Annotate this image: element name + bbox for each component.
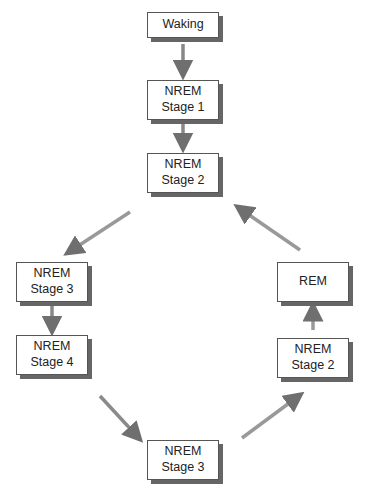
arrow-rem-nrem2top [242, 210, 300, 250]
arrow-nrem2-nrem3left [72, 212, 130, 250]
node-label: Stage 4 [30, 355, 73, 371]
node-nrem3-left: NREMStage 3 [16, 262, 88, 302]
node-label: REM [299, 274, 327, 290]
arrows-layer [0, 0, 371, 497]
arrow-nrem3bottom-nrem2right [242, 398, 296, 438]
node-label: NREM [34, 266, 71, 282]
node-label: NREM [165, 157, 202, 173]
node-label: Stage 3 [161, 460, 204, 476]
node-label: Stage 2 [161, 173, 204, 189]
node-nrem2-top: NREMStage 2 [147, 153, 219, 193]
node-nrem3-bottom: NREMStage 3 [147, 440, 219, 480]
node-label: NREM [165, 444, 202, 460]
node-nrem1: NREMStage 1 [147, 80, 219, 120]
node-label: Stage 3 [30, 282, 73, 298]
node-waking: Waking [147, 12, 219, 38]
node-nrem2-right: NREMStage 2 [277, 338, 349, 378]
node-rem: REM [277, 262, 349, 302]
node-nrem4: NREMStage 4 [16, 335, 88, 375]
node-label: NREM [165, 84, 202, 100]
node-label: NREM [295, 342, 332, 358]
node-label: Stage 1 [161, 100, 204, 116]
arrow-nrem4-nrem3bottom [100, 396, 136, 435]
node-label: NREM [34, 339, 71, 355]
node-label: Waking [162, 17, 203, 33]
node-label: Stage 2 [291, 358, 334, 374]
